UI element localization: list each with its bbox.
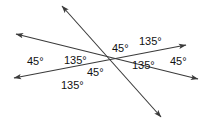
angle-label-45-middle: 45° <box>87 66 104 78</box>
angle-label-135-top-right: 135° <box>139 35 162 47</box>
angle-label-45-right: 45° <box>170 55 187 67</box>
angle-label-135-bottom: 135° <box>61 79 84 91</box>
angle-label-45-upper-middle: 45° <box>112 42 129 54</box>
angle-label-135-upper-left: 135° <box>64 54 87 66</box>
angle-label-45-left: 45° <box>27 55 44 67</box>
angle-label-135-mid-right: 135° <box>132 59 155 71</box>
